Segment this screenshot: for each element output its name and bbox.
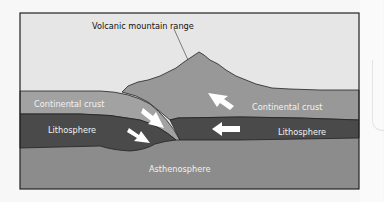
right-lithosphere-label: Lithosphere	[278, 127, 326, 137]
left-lithosphere-label: Lithosphere	[48, 125, 96, 135]
right-lithosphere	[170, 117, 359, 140]
right-continental-crust-label: Continental crust	[252, 102, 323, 112]
volcanic-mountain-range-label: Volcanic mountain range	[92, 21, 194, 31]
left-continental-crust-label: Continental crust	[34, 99, 105, 109]
asthenosphere-label: Asthenosphere	[149, 164, 210, 174]
